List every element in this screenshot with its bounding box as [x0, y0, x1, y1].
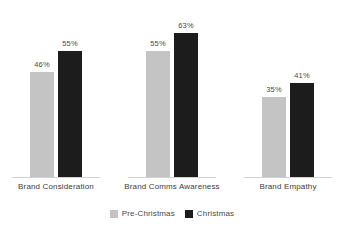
- bar-group-bars: 55% 63%: [128, 17, 216, 177]
- bar-value-label: 46%: [34, 60, 49, 69]
- category-label-brand-empathy: Brand Empathy: [244, 182, 332, 191]
- bar-value-label: 55%: [150, 39, 165, 48]
- bar-value-label: 63%: [178, 21, 193, 30]
- bar-group-bars: 46% 55%: [12, 17, 100, 177]
- bar-fill: [58, 51, 82, 177]
- bar-christmas[interactable]: 41%: [290, 83, 314, 177]
- bar-pre-christmas[interactable]: 55%: [146, 51, 170, 177]
- bar-group-brand-empathy: 35% 41%: [244, 0, 332, 178]
- bar-pre-christmas[interactable]: 46%: [30, 72, 54, 177]
- bar-value-label: 35%: [266, 85, 281, 94]
- group-baseline: [244, 177, 332, 178]
- legend-item-christmas[interactable]: Christmas: [185, 209, 234, 218]
- bar-pre-christmas[interactable]: 35%: [262, 97, 286, 177]
- bar-fill: [290, 83, 314, 177]
- bar-group-brand-consideration: 46% 55%: [12, 0, 100, 178]
- bar-group-brand-comms-awareness: 55% 63%: [128, 0, 216, 178]
- bar-christmas[interactable]: 63%: [174, 33, 198, 177]
- bar-group-bars: 35% 41%: [244, 17, 332, 177]
- legend-item-pre-christmas[interactable]: Pre-Christmas: [110, 209, 175, 218]
- category-label-brand-consideration: Brand Consideration: [12, 182, 100, 191]
- bar-value-label: 41%: [294, 71, 309, 80]
- plot-area: 46% 55% Brand Consideration 55% 63%: [0, 0, 344, 178]
- bar-fill: [146, 51, 170, 177]
- grouped-bar-chart: 46% 55% Brand Consideration 55% 63%: [0, 0, 344, 235]
- bar-fill: [262, 97, 286, 177]
- chart-legend: Pre-Christmas Christmas: [0, 209, 344, 218]
- legend-label-pre-christmas: Pre-Christmas: [122, 209, 175, 218]
- legend-swatch-christmas: [185, 210, 193, 218]
- category-label-brand-comms-awareness: Brand Comms Awareness: [124, 182, 220, 191]
- bar-fill: [30, 72, 54, 177]
- bar-fill: [174, 33, 198, 177]
- bar-christmas[interactable]: 55%: [58, 51, 82, 177]
- legend-label-christmas: Christmas: [197, 209, 234, 218]
- bar-value-label: 55%: [62, 39, 77, 48]
- group-baseline: [128, 177, 216, 178]
- legend-swatch-pre-christmas: [110, 210, 118, 218]
- group-baseline: [12, 177, 100, 178]
